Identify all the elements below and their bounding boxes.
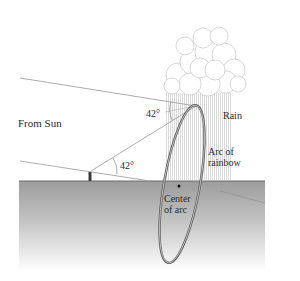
cloud	[164, 27, 246, 96]
observer-figure	[89, 172, 92, 181]
rain-label: Rain	[223, 110, 242, 121]
center-of-arc-line2: of arc	[164, 204, 191, 215]
ground	[19, 181, 265, 271]
center-of-arc-label: Center of arc	[164, 193, 191, 215]
center-of-arc-line1: Center	[164, 193, 191, 204]
center-of-arc-dot	[178, 185, 181, 188]
arc-of-rainbow-line2: rainbow	[208, 157, 241, 168]
angle-observer-label: 42°	[120, 160, 134, 171]
arc-of-rainbow-line1: Arc of	[208, 146, 241, 157]
rainbow-diagram: From Sun 42° 42° Rain Arc of rainbow Cen…	[0, 0, 300, 281]
from-sun-label: From Sun	[18, 118, 62, 129]
arc-of-rainbow-label: Arc of rainbow	[208, 146, 241, 168]
angle-top-label: 42°	[146, 108, 160, 119]
